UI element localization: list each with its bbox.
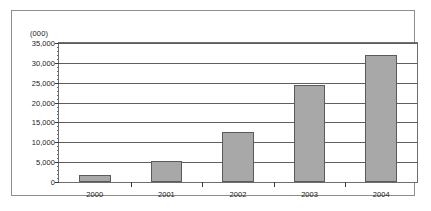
- y-axis-minor-tick: [57, 51, 59, 52]
- y-axis-minor-tick: [57, 114, 59, 115]
- x-axis-category-label: 2002: [230, 190, 247, 199]
- plot-area: 05,00010,00015,00020,00025,00030,00035,0…: [58, 42, 418, 183]
- x-axis-category-label: 2004: [373, 190, 390, 199]
- y-axis-minor-tick: [57, 178, 59, 179]
- x-axis-tick-mark: [202, 182, 203, 187]
- y-axis-minor-tick: [57, 67, 59, 68]
- y-axis-minor-tick: [57, 130, 59, 131]
- y-axis-minor-tick: [57, 154, 59, 155]
- y-axis-minor-tick: [57, 146, 59, 147]
- y-axis-minor-tick: [57, 166, 59, 167]
- y-axis-minor-tick: [57, 59, 59, 60]
- bar: [151, 161, 183, 182]
- y-axis-minor-tick: [57, 150, 59, 151]
- chart-figure-frame: (000) 05,00010,00015,00020,00025,00030,0…: [11, 10, 415, 196]
- y-axis-minor-tick: [57, 71, 59, 72]
- y-axis-tick-mark: [55, 43, 59, 44]
- x-axis-category-label: 2001: [158, 190, 175, 199]
- y-axis-minor-tick: [57, 111, 59, 112]
- y-axis-minor-tick: [57, 75, 59, 76]
- y-axis-minor-tick: [57, 126, 59, 127]
- gridline: [59, 83, 417, 84]
- y-axis-minor-tick: [57, 107, 59, 108]
- x-axis-category-label: 2003: [301, 190, 318, 199]
- bar: [79, 175, 111, 182]
- y-axis-tick-label: 35,000: [32, 39, 55, 48]
- y-axis-tick-label: 20,000: [32, 98, 55, 107]
- y-axis-tick-label: 25,000: [32, 78, 55, 87]
- bar: [294, 85, 326, 182]
- y-axis-minor-tick: [57, 158, 59, 159]
- y-axis-minor-tick: [57, 118, 59, 119]
- gridline: [59, 122, 417, 123]
- y-axis-tick-mark: [55, 103, 59, 104]
- x-axis-tick-mark: [274, 182, 275, 187]
- x-axis-category-label: 2000: [86, 190, 103, 199]
- gridline: [59, 103, 417, 104]
- y-axis-tick-label: 0: [51, 178, 55, 187]
- x-axis-tick-mark: [131, 182, 132, 187]
- y-axis-minor-tick: [57, 95, 59, 96]
- y-axis-tick-mark: [55, 63, 59, 64]
- y-axis-units-caption: (000): [30, 29, 48, 38]
- y-axis-minor-tick: [57, 99, 59, 100]
- y-axis-minor-tick: [57, 134, 59, 135]
- y-axis-tick-mark: [55, 182, 59, 183]
- gridline: [59, 43, 417, 44]
- y-axis-minor-tick: [57, 55, 59, 56]
- y-axis-tick-label: 5,000: [36, 158, 55, 167]
- gridline: [59, 63, 417, 64]
- y-axis-tick-label: 15,000: [32, 118, 55, 127]
- y-axis-minor-tick: [57, 170, 59, 171]
- y-axis-tick-mark: [55, 162, 59, 163]
- x-axis-tick-mark: [345, 182, 346, 187]
- y-axis-tick-label: 30,000: [32, 58, 55, 67]
- bar: [365, 55, 397, 182]
- y-axis-minor-tick: [57, 138, 59, 139]
- y-axis-tick-mark: [55, 83, 59, 84]
- y-axis-tick-mark: [55, 122, 59, 123]
- y-axis-tick-label: 10,000: [32, 138, 55, 147]
- bar: [222, 132, 254, 182]
- y-axis-minor-tick: [57, 91, 59, 92]
- y-axis-minor-tick: [57, 174, 59, 175]
- y-axis-minor-tick: [57, 79, 59, 80]
- y-axis-tick-mark: [55, 142, 59, 143]
- y-axis-minor-tick: [57, 87, 59, 88]
- y-axis-minor-tick: [57, 47, 59, 48]
